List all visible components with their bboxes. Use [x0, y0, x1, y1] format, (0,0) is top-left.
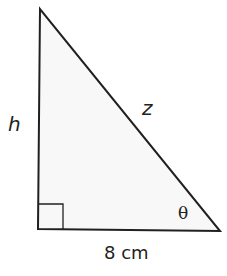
right-triangle [38, 9, 220, 231]
height-label: h [8, 112, 21, 136]
triangle-figure [0, 0, 227, 276]
angle-label: θ [178, 203, 188, 223]
hypotenuse-label: z [142, 96, 153, 120]
base-label: 8 cm [104, 242, 149, 263]
triangle-diagram: h z θ 8 cm [0, 0, 227, 276]
